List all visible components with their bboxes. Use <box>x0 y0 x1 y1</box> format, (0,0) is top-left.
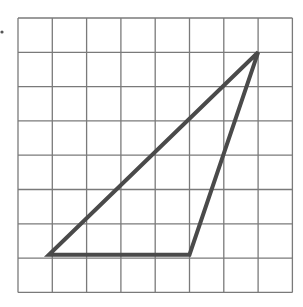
bullet-marker <box>0 30 3 33</box>
grid-triangle-figure <box>0 0 303 307</box>
